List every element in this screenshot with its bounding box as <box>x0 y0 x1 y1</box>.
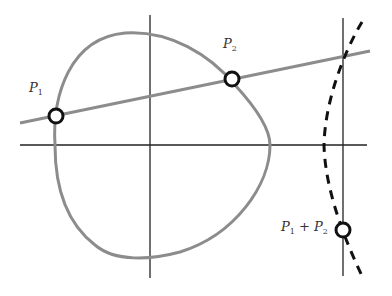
label-sum-plus: + <box>295 219 314 234</box>
label-sum: P1 + P2 <box>280 219 328 236</box>
point-p2 <box>225 72 239 86</box>
label-p1-sub: 1 <box>38 88 43 97</box>
elliptic-curve-diagram: P1 P2 P1 + P2 <box>0 0 392 296</box>
point-sum <box>336 223 350 237</box>
label-sum-base1: P <box>280 219 290 234</box>
label-p2-sub: 2 <box>232 44 237 53</box>
label-sum-sub2: 2 <box>323 227 328 236</box>
secant-line <box>20 51 370 123</box>
label-p2: P2 <box>222 36 237 53</box>
label-p1-base: P <box>28 80 38 95</box>
label-p1: P1 <box>28 80 43 97</box>
label-p2-base: P <box>222 36 232 51</box>
label-sum-base2: P <box>313 219 323 234</box>
point-p1 <box>49 109 63 123</box>
